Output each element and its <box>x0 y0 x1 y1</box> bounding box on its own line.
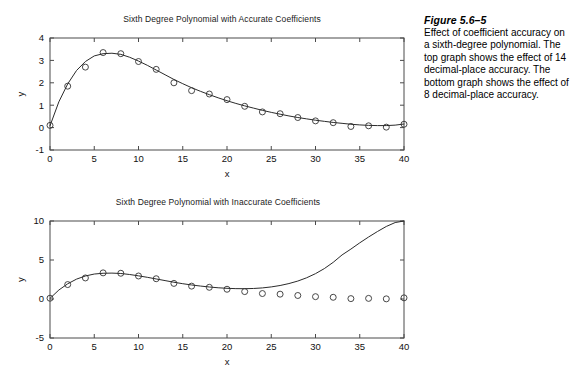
chart-bottom-plot-area: 0510152025303540-50510xy <box>0 197 414 377</box>
x-tick-label: 25 <box>266 153 277 164</box>
x-tick-label: 15 <box>177 341 188 352</box>
x-tick-label: 30 <box>310 153 321 164</box>
x-tick-label: 0 <box>47 341 52 352</box>
y-tick-label: 3 <box>39 55 44 66</box>
figure-caption: Figure 5.6–5 Effect of coefficient accur… <box>424 14 570 101</box>
y-axis-label: y <box>15 91 26 96</box>
x-tick-label: 15 <box>177 153 188 164</box>
data-point-marker <box>313 294 319 300</box>
chart-bottom-svg: 0510152025303540-50510xy <box>0 197 414 377</box>
figure-caption-title: Figure 5.6–5 <box>424 14 570 26</box>
y-tick-label: 4 <box>39 32 44 43</box>
data-point-marker <box>383 296 389 302</box>
figure-container: Sixth Degree Polynomial with Accurate Co… <box>0 0 578 384</box>
y-axis-label: y <box>15 277 26 282</box>
charts-column: Sixth Degree Polynomial with Accurate Co… <box>0 0 414 384</box>
data-point-marker <box>189 283 195 289</box>
y-tick-label: -1 <box>36 144 44 155</box>
x-tick-label: 10 <box>133 153 144 164</box>
data-point-group <box>47 270 407 302</box>
y-tick-label: 1 <box>39 100 44 111</box>
plot-box <box>50 38 404 150</box>
y-tick-label: 5 <box>39 254 44 265</box>
data-point-marker <box>259 291 265 297</box>
y-tick-label: -5 <box>36 332 44 343</box>
data-point-group <box>47 50 407 131</box>
x-tick-label: 25 <box>266 341 277 352</box>
y-tick-label: 0 <box>39 293 44 304</box>
x-tick-label: 35 <box>354 341 365 352</box>
x-axis-label: x <box>225 356 230 367</box>
data-point-marker <box>82 64 88 70</box>
x-tick-label: 0 <box>47 153 52 164</box>
data-point-marker <box>348 296 354 302</box>
chart-top-plot-area: 0510152025303540-101234xy <box>0 14 414 189</box>
y-tick-label: 10 <box>33 215 44 226</box>
data-point-marker <box>171 280 177 286</box>
y-tick-label: 2 <box>39 77 44 88</box>
x-axis-label: x <box>225 168 230 179</box>
x-tick-label: 30 <box>310 341 321 352</box>
x-tick-label: 35 <box>354 153 365 164</box>
data-point-marker <box>330 294 336 300</box>
data-point-marker <box>242 289 248 295</box>
x-tick-label: 20 <box>222 153 233 164</box>
x-tick-label: 10 <box>133 341 144 352</box>
plot-box <box>50 221 404 338</box>
x-tick-label: 40 <box>399 341 410 352</box>
fit-curve <box>50 221 404 298</box>
x-tick-label: 20 <box>222 341 233 352</box>
y-tick-label: 0 <box>39 122 44 133</box>
data-point-marker <box>366 295 372 301</box>
data-point-marker <box>295 292 301 298</box>
chart-bottom: Sixth Degree Polynomial with Inaccurate … <box>0 197 414 377</box>
figure-caption-body: Effect of coefficient accuracy on a sixt… <box>424 27 570 101</box>
chart-top: Sixth Degree Polynomial with Accurate Co… <box>0 14 414 189</box>
x-tick-label: 5 <box>92 341 97 352</box>
fit-curve <box>50 53 404 126</box>
chart-top-svg: 0510152025303540-101234xy <box>0 14 414 189</box>
data-point-marker <box>277 291 283 297</box>
data-point-marker <box>224 286 230 292</box>
x-tick-label: 5 <box>92 153 97 164</box>
x-tick-label: 40 <box>399 153 410 164</box>
